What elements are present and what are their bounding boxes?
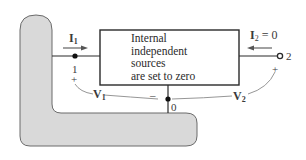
port1-plus: +: [71, 73, 77, 85]
v1-curve: [75, 84, 158, 99]
v2-label: V2: [233, 90, 246, 106]
i1-subscript: 1: [74, 37, 78, 46]
box-description: Internal independent sources are set to …: [131, 32, 195, 82]
port1-node: [72, 53, 77, 58]
v1-label: V1: [93, 88, 106, 104]
box-line: Internal: [131, 32, 195, 45]
i2-value: = 0: [259, 28, 278, 42]
terminal2-label: 2: [286, 50, 292, 62]
v2-symbol: V: [233, 89, 242, 103]
port2-plus: +: [272, 63, 278, 75]
i2-arrow-icon: [247, 46, 272, 51]
v1-subscript: 1: [102, 93, 106, 102]
box-line: are set to zero: [131, 70, 195, 83]
v1-symbol: V: [93, 87, 102, 101]
i2-label: I2 = 0: [250, 29, 277, 45]
i1-label: I1: [69, 32, 78, 48]
common-node: [165, 96, 170, 101]
common-minus: –: [150, 89, 156, 101]
v2-subscript: 2: [242, 95, 246, 104]
box-line: sources: [131, 57, 195, 70]
box-line: independent: [131, 45, 195, 58]
node0-label: 0: [171, 101, 177, 113]
port2-terminal: [277, 53, 282, 58]
